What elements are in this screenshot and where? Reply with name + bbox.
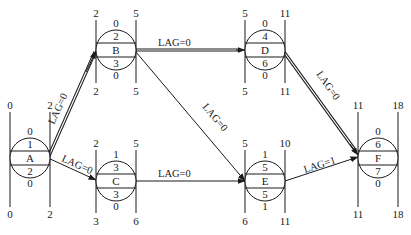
link-d-f: LAG=0 [284,52,358,155]
node-lower-value: 6 [262,57,268,69]
node-name: E [262,175,269,187]
node-lower-value: 5 [262,188,268,200]
node-ef: 18 [393,99,405,111]
node-name: B [112,44,119,56]
node-upper-value: 4 [262,30,268,42]
node-ls: 3 [93,215,99,227]
lag-label: LAG=0 [60,153,94,176]
node-name: C [112,175,119,187]
link-b-d: LAG=0 [136,37,245,50]
link-a-b: LAG=0 [46,51,96,158]
node-bottom-value: 0 [262,69,268,81]
node-es: 2 [93,137,99,149]
node-upper-value: 1 [27,138,33,150]
node-lower-value: 3 [113,188,119,200]
lag-label: LAG=0 [158,37,191,48]
node-es: 2 [93,7,99,19]
node-lf: 11 [280,85,291,97]
node-top-value: 0 [262,17,268,29]
node-es: 5 [242,7,248,19]
node-ls: 11 [353,208,364,220]
node-ef: 5 [133,137,139,149]
network-diagram: LAG=0 LAG=0 LAG=0 LAG=0 LAG=0 LAG=0 LAG=… [0,0,411,235]
node-f: 0 6 F 7 0 11 18 11 18 [353,99,404,220]
link-e-f: LAG=1 [285,154,358,181]
node-lf: 6 [133,215,139,227]
node-ls: 2 [93,85,99,97]
link-a-c: LAG=0 [48,153,96,180]
node-upper-value: 6 [375,138,381,150]
node-ls: 5 [242,85,248,97]
node-ef: 2 [47,99,53,111]
lag-label: LAG=0 [200,101,229,133]
node-top-value: 1 [113,148,119,160]
node-ls: 0 [7,208,13,220]
node-top-value: 0 [375,125,381,137]
node-ef: 11 [280,7,291,19]
node-c: 1 3 C 3 0 2 5 3 6 [93,137,139,227]
node-bottom-value: 1 [262,200,268,212]
lag-label: LAG=0 [158,168,191,179]
node-es: 11 [353,99,364,111]
node-a: 0 1 A 2 0 0 2 0 2 [7,99,53,220]
link-b-e: LAG=0 [136,52,245,181]
node-top-value: 0 [113,17,119,29]
node-ef: 10 [280,137,292,149]
node-bottom-value: 0 [113,200,119,212]
link-c-e: LAG=0 [136,168,245,181]
node-bottom-value: 0 [113,69,119,81]
node-name: F [375,152,381,164]
node-upper-value: 3 [113,161,119,173]
node-lower-value: 7 [375,165,381,177]
node-upper-value: 5 [262,161,268,173]
lag-label: LAG=1 [302,154,337,175]
node-lf: 18 [393,208,405,220]
node-lower-value: 2 [27,165,33,177]
node-lf: 11 [280,215,291,227]
node-lower-value: 3 [113,57,119,69]
node-top-value: 0 [27,125,33,137]
node-bottom-value: 0 [375,177,381,189]
node-es: 5 [242,137,248,149]
node-d: 0 4 D 6 0 5 11 5 11 [242,7,290,97]
node-ef: 5 [133,7,139,19]
node-e: 1 5 E 5 1 5 10 6 11 [242,137,291,227]
node-ls: 6 [242,215,248,227]
node-bottom-value: 0 [27,177,33,189]
node-lf: 5 [133,85,139,97]
node-top-value: 1 [262,148,268,160]
node-es: 0 [7,99,13,111]
node-name: A [26,152,34,164]
node-upper-value: 2 [113,30,119,42]
node-name: D [261,44,269,56]
node-b: 0 2 B 3 0 2 5 2 5 [93,7,139,97]
node-lf: 2 [47,208,53,220]
diagram-svg: LAG=0 LAG=0 LAG=0 LAG=0 LAG=0 LAG=0 LAG=… [0,0,411,235]
